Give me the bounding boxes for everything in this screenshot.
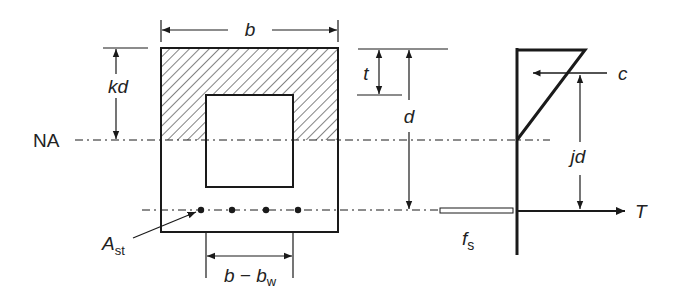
dimension-b: b (161, 19, 338, 42)
label-t: t (363, 63, 369, 84)
b-bw-main: b − b (224, 265, 267, 286)
tension-force: T (518, 201, 648, 222)
fs-sub: s (467, 237, 474, 253)
inner-void (206, 95, 293, 187)
label-b: b (245, 19, 256, 40)
label-na: NA (33, 130, 60, 151)
svg-text:Ast: Ast (101, 233, 125, 258)
label-fs: fs (462, 228, 474, 253)
label-jd: jd (568, 146, 587, 167)
dimension-d: d (404, 50, 416, 209)
steel-bars (198, 207, 301, 213)
ast-main: A (101, 233, 115, 254)
label-t-force: T (635, 201, 648, 222)
label-ast: Ast (101, 212, 196, 258)
steel-stress-bar (440, 208, 513, 213)
beam-section-diagram: b kd NA t d Ast b − bw (0, 0, 677, 300)
lever-arm-jd: jd (568, 75, 587, 209)
label-c: c (618, 63, 628, 84)
dimension-t: t (357, 49, 448, 95)
dimension-kd: kd (103, 48, 148, 139)
label-d: d (404, 106, 416, 127)
dimension-b-minus-bw: b − bw (206, 232, 293, 289)
stress-diagram (440, 48, 585, 255)
label-kd: kd (108, 76, 130, 97)
b-bw-sub: w (266, 274, 277, 289)
ast-sub: st (115, 243, 126, 258)
svg-text:b − bw: b − bw (224, 265, 277, 289)
